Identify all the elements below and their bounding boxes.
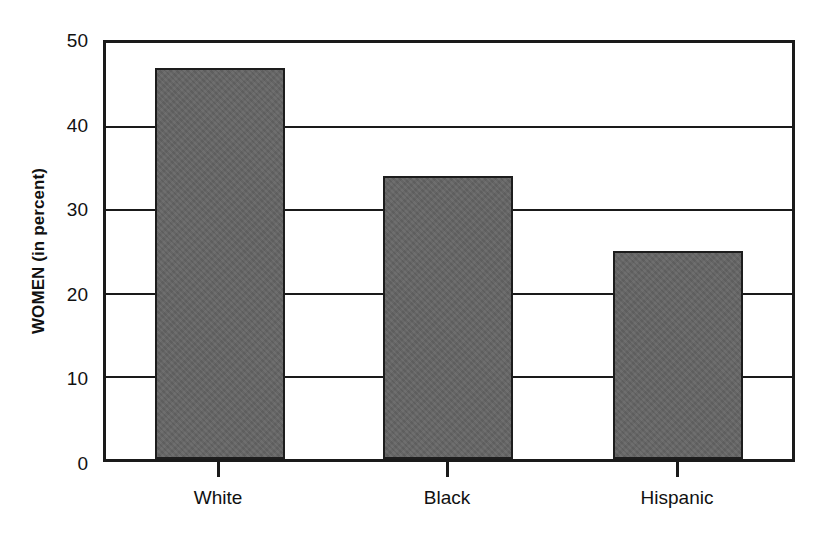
- bar-black: [383, 176, 513, 459]
- y-axis-tick-labels: 50 40 30 20 10 0: [44, 0, 88, 535]
- x-tick-label-hispanic: Hispanic: [577, 487, 777, 509]
- bar-chart: WOMEN (in percent) 50 40 30 20 10 0 Whit…: [0, 0, 823, 535]
- y-tick-label-20: 20: [44, 285, 88, 304]
- x-tick-label-black: Black: [347, 487, 547, 509]
- y-tick-label-30: 30: [44, 200, 88, 219]
- x-tick-black: [446, 462, 449, 477]
- bar-hispanic: [613, 251, 743, 459]
- x-tick-label-white: White: [118, 487, 318, 509]
- x-tick-hispanic: [676, 462, 679, 477]
- y-tick-label-0: 0: [44, 454, 88, 473]
- y-tick-label-10: 10: [44, 369, 88, 388]
- bar-white: [155, 68, 285, 459]
- plot-area: [103, 40, 795, 462]
- x-tick-white: [217, 462, 220, 477]
- y-tick-label-50: 50: [44, 31, 88, 50]
- y-tick-label-40: 40: [44, 116, 88, 135]
